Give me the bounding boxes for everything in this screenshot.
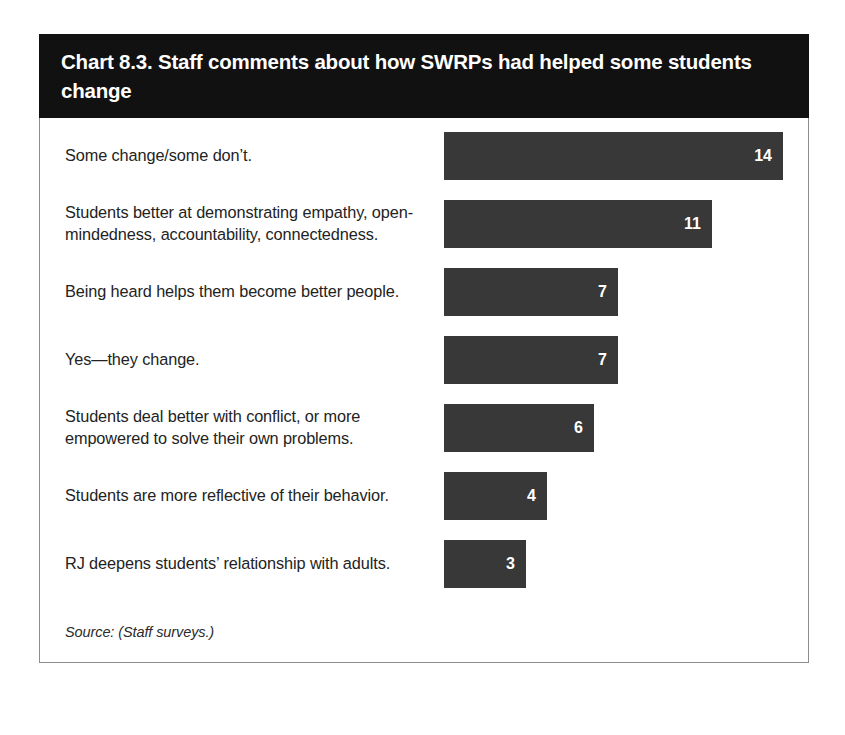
bar-category-label: Students are more reflective of their be… — [40, 485, 444, 507]
bar-value-label: 7 — [598, 351, 607, 369]
bar-value-label: 3 — [506, 555, 515, 573]
bar-track: 6 — [444, 404, 808, 452]
bar-track: 7 — [444, 268, 808, 316]
bar-row: Students better at demonstrating empathy… — [40, 190, 808, 258]
source-note: Source: (Staff surveys.) — [65, 624, 214, 640]
bar-track: 14 — [444, 132, 808, 180]
bar-value-label: 6 — [574, 419, 583, 437]
bar-category-label: Students better at demonstrating empathy… — [40, 202, 444, 245]
chart-title-bar: Chart 8.3. Staff comments about how SWRP… — [39, 34, 809, 118]
bar-row: Being heard helps them become better peo… — [40, 258, 808, 326]
bar-rows-container: Some change/some don’t. 14 Students bett… — [40, 118, 808, 598]
chart-plot-area: Some change/some don’t. 14 Students bett… — [39, 118, 809, 663]
bar-segment: 14 — [444, 132, 783, 180]
bar-row: Students deal better with conflict, or m… — [40, 394, 808, 462]
bar-track: 11 — [444, 200, 808, 248]
bar-category-label: Some change/some don’t. — [40, 145, 444, 167]
bar-segment: 7 — [444, 336, 618, 384]
chart-title: Chart 8.3. Staff comments about how SWRP… — [61, 47, 787, 105]
chart-figure: Chart 8.3. Staff comments about how SWRP… — [39, 34, 809, 663]
bar-segment: 11 — [444, 200, 712, 248]
bar-segment: 6 — [444, 404, 594, 452]
bar-value-label: 14 — [754, 147, 772, 165]
bar-segment: 3 — [444, 540, 526, 588]
bar-value-label: 4 — [527, 487, 536, 505]
bar-category-label: RJ deepens students’ relationship with a… — [40, 553, 444, 575]
bar-row: Some change/some don’t. 14 — [40, 122, 808, 190]
bar-category-label: Yes—they change. — [40, 349, 444, 371]
bar-segment: 7 — [444, 268, 618, 316]
bar-track: 4 — [444, 472, 808, 520]
bar-row: Yes—they change. 7 — [40, 326, 808, 394]
bar-value-label: 7 — [598, 283, 607, 301]
bar-row: Students are more reflective of their be… — [40, 462, 808, 530]
bar-row: RJ deepens students’ relationship with a… — [40, 530, 808, 598]
bar-value-label: 11 — [684, 215, 701, 233]
bar-segment: 4 — [444, 472, 547, 520]
bar-track: 7 — [444, 336, 808, 384]
bar-track: 3 — [444, 540, 808, 588]
bar-category-label: Students deal better with conflict, or m… — [40, 406, 444, 449]
bar-category-label: Being heard helps them become better peo… — [40, 281, 444, 303]
